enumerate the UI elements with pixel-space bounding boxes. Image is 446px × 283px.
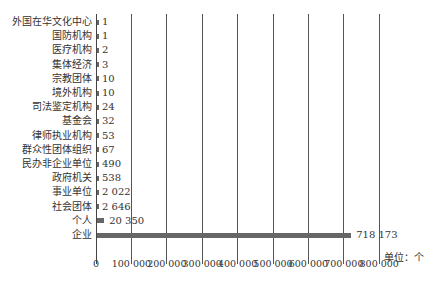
value-label: 538 bbox=[102, 172, 121, 184]
value-label: 718 173 bbox=[356, 229, 397, 241]
bar bbox=[97, 133, 99, 138]
horizontal-bar-chart: 0100 000200 000300 000400 000500 000600 … bbox=[0, 0, 446, 283]
bar bbox=[97, 48, 99, 53]
x-tick-label: 500 000 bbox=[253, 258, 292, 269]
category-label: 集体经济 bbox=[52, 59, 92, 71]
bar bbox=[97, 233, 351, 238]
x-tick-label: 600 000 bbox=[289, 258, 328, 269]
x-tick-label: 100 000 bbox=[112, 258, 151, 269]
x-tick-label: 700 000 bbox=[324, 258, 363, 269]
bar bbox=[97, 105, 99, 110]
bar bbox=[97, 20, 99, 25]
category-label: 个人 bbox=[72, 215, 92, 227]
bar bbox=[97, 62, 99, 67]
bar bbox=[97, 91, 99, 96]
value-label: 10 bbox=[102, 87, 115, 99]
value-label: 53 bbox=[102, 130, 115, 142]
category-label: 事业单位 bbox=[52, 186, 92, 198]
value-label: 2 bbox=[102, 44, 108, 56]
category-label: 外国在华文化中心 bbox=[12, 16, 92, 28]
bar bbox=[97, 119, 99, 124]
category-label: 境外机构 bbox=[52, 87, 92, 99]
value-label: 10 bbox=[102, 73, 115, 85]
bar bbox=[97, 190, 99, 195]
value-label: 2 022 bbox=[102, 186, 131, 198]
bar bbox=[97, 147, 99, 152]
category-label: 群众性团体组织 bbox=[22, 144, 92, 156]
value-label: 490 bbox=[102, 158, 121, 170]
x-tick-label: 200 000 bbox=[147, 258, 186, 269]
value-label: 3 bbox=[102, 59, 108, 71]
unit-label: 单位：个 bbox=[384, 249, 424, 264]
category-label: 社会团体 bbox=[52, 201, 92, 213]
gridline bbox=[237, 14, 238, 264]
gridline bbox=[166, 14, 167, 264]
category-label: 律师执业机构 bbox=[32, 130, 92, 142]
bar bbox=[97, 76, 99, 81]
category-label: 医疗机构 bbox=[52, 44, 92, 56]
category-label: 国防机构 bbox=[52, 30, 92, 42]
value-label: 67 bbox=[102, 144, 115, 156]
category-label: 企业 bbox=[72, 229, 92, 241]
bar bbox=[97, 176, 99, 181]
x-tick-label: 0 bbox=[93, 258, 99, 269]
x-tick-label: 300 000 bbox=[183, 258, 222, 269]
gridline bbox=[308, 14, 309, 264]
value-label: 1 bbox=[102, 30, 108, 42]
bar bbox=[97, 34, 99, 39]
value-label: 2 646 bbox=[102, 201, 131, 213]
value-label: 32 bbox=[102, 115, 115, 127]
bar bbox=[97, 218, 104, 223]
bar bbox=[97, 162, 99, 167]
x-tick-label: 400 000 bbox=[218, 258, 257, 269]
gridline bbox=[202, 14, 203, 264]
bar bbox=[97, 204, 99, 209]
gridline bbox=[343, 14, 344, 264]
category-label: 民办非企业单位 bbox=[22, 158, 92, 170]
gridline bbox=[273, 14, 274, 264]
value-label: 24 bbox=[102, 101, 115, 113]
gridline bbox=[379, 14, 380, 264]
value-label: 1 bbox=[102, 16, 108, 28]
category-label: 政府机关 bbox=[52, 172, 92, 184]
category-label: 司法鉴定机构 bbox=[32, 101, 92, 113]
category-label: 宗教团体 bbox=[52, 73, 92, 85]
value-label: 20 350 bbox=[109, 215, 144, 227]
category-label: 基金会 bbox=[62, 115, 92, 127]
